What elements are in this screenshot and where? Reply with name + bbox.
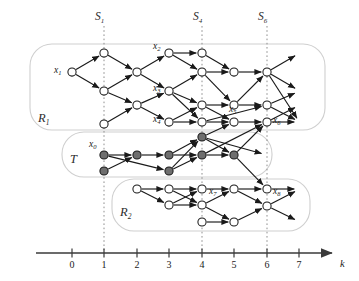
axis-variable-label: k [340, 258, 345, 269]
axis-tick-label-6: 6 [265, 259, 270, 270]
node-open[interactable] [100, 49, 108, 57]
node-open[interactable] [100, 120, 108, 128]
axis-tick-label-7: 7 [297, 259, 302, 270]
section-marker-label-4: S4 [193, 10, 203, 25]
figure-container: S1S4S6 x0x1x2x3x4x5x6x7x8 R1TR2 01234567… [0, 0, 359, 281]
node-label-x8: x8 [272, 186, 281, 197]
node-solid[interactable] [100, 151, 108, 159]
node-open[interactable] [230, 68, 238, 76]
region-t-label: T [70, 152, 78, 166]
node-solid[interactable] [198, 133, 206, 141]
node-open[interactable] [165, 118, 173, 126]
edge [237, 76, 263, 102]
node-label-x4: x4 [152, 114, 161, 125]
edge [173, 75, 197, 89]
node-label-x1: x1 [53, 65, 61, 76]
node-solid[interactable] [133, 151, 141, 159]
edge [238, 208, 262, 219]
node-open[interactable] [165, 201, 173, 209]
edge [141, 93, 163, 103]
edge [108, 75, 132, 89]
node-open[interactable] [133, 68, 141, 76]
edge [141, 191, 164, 202]
node-label-x2: x2 [152, 41, 161, 52]
section-marker-label-1: S1 [95, 10, 104, 25]
node-open[interactable] [198, 218, 206, 226]
node-label-x6: x6 [272, 115, 281, 126]
node-solid[interactable] [165, 167, 173, 175]
node-open[interactable] [263, 185, 271, 193]
node-open[interactable] [100, 87, 108, 95]
node-open[interactable] [165, 49, 173, 57]
node-open[interactable] [198, 185, 206, 193]
node-solid[interactable] [198, 151, 206, 159]
node-solid[interactable] [100, 167, 108, 175]
edge [141, 56, 164, 70]
edge [270, 76, 297, 118]
region-r1-label: R1 [37, 111, 49, 127]
node-open[interactable] [198, 68, 206, 76]
axis-tick-label-0: 0 [70, 259, 75, 270]
node-open[interactable] [263, 101, 271, 109]
node-open[interactable] [68, 68, 76, 76]
edge [76, 74, 99, 88]
edge [271, 74, 295, 88]
region-r2-label: R2 [119, 205, 132, 221]
node-label-x3: x3 [152, 83, 161, 94]
node-open[interactable] [230, 218, 238, 226]
edge [108, 93, 131, 103]
node-open[interactable] [133, 101, 141, 109]
node-open[interactable] [263, 118, 271, 126]
node-solid[interactable] [230, 151, 238, 159]
node-open[interactable] [263, 68, 271, 76]
edge [76, 56, 99, 70]
edge [237, 158, 263, 185]
node-open[interactable] [165, 87, 173, 95]
edge [206, 55, 229, 69]
edge [206, 207, 229, 219]
edge [271, 208, 295, 219]
node-open[interactable] [165, 185, 173, 193]
node-open[interactable] [263, 202, 271, 210]
node-open[interactable] [198, 49, 206, 57]
node-open[interactable] [198, 101, 206, 109]
axis-layer: 01234567k [36, 249, 345, 271]
edge [108, 108, 132, 122]
node-label-x0: x0 [88, 139, 97, 150]
nodes-layer [68, 49, 271, 226]
edge [238, 191, 262, 203]
node-solid[interactable] [165, 151, 173, 159]
node-open[interactable] [198, 118, 206, 126]
edge [173, 55, 197, 69]
node-open[interactable] [230, 118, 238, 126]
axis-tick-label-5: 5 [232, 259, 237, 270]
section-marker-label-6: S6 [258, 10, 268, 25]
axis-tick-label-4: 4 [200, 259, 205, 270]
axis-tick-label-2: 2 [135, 259, 140, 270]
edge [206, 125, 262, 153]
edge [108, 55, 132, 69]
network-diagram-svg: S1S4S6 x0x1x2x3x4x5x6x7x8 R1TR2 01234567… [0, 0, 359, 281]
node-open[interactable] [198, 201, 206, 209]
axis-tick-label-3: 3 [167, 259, 172, 270]
node-open[interactable] [230, 185, 238, 193]
edge [205, 75, 230, 101]
edge [271, 56, 295, 70]
region-labels-layer: R1TR2 [37, 111, 132, 221]
edge [271, 93, 294, 103]
axis-tick-label-1: 1 [102, 259, 107, 270]
node-open[interactable] [133, 185, 141, 193]
node-label-x7: x7 [208, 186, 217, 197]
